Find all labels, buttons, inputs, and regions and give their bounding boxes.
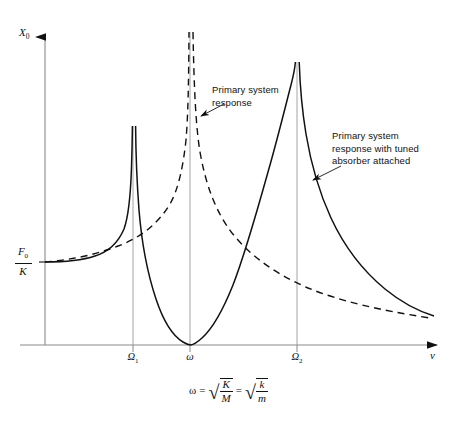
radical-hook-icon: √ [209,387,220,398]
fk-numerator: F [18,245,25,257]
curve-primary-response-left [45,32,189,262]
y-axis-value-label: F0 K [8,245,38,277]
formula-equals-2: = [236,384,242,396]
formula-second-numerator: k [256,379,268,390]
tick-label-omega-2: Ω2 [284,351,310,365]
formula-omega: ω [189,384,196,396]
annotation-primary-system-response-tuned-absorber: Primary system response with tuned absor… [332,130,419,168]
tick-label-omega: ω [177,351,203,362]
annotation-primary-system-response: Primary system response [212,84,279,109]
radical-hook-icon-2: √ [245,387,256,398]
leader-line-absorber-response [313,166,341,180]
tick-label-omega-1: Ω1 [120,351,146,365]
formula-radical-1: √KM [209,378,233,404]
chart-svg [0,0,457,422]
figure-container: X0 ν F0 K Ω1 ω Ω2 Primary system respons… [0,0,457,422]
curve-absorber-branch-3 [299,62,434,316]
curve-primary-response-right [193,32,430,318]
formula-second-denominator: m [256,393,268,404]
fk-numerator-sub: 0 [25,252,29,260]
formula-first-numerator: K [220,379,233,390]
formula-radical-2: √km [245,378,268,404]
formula-equals-1: = [199,384,205,396]
formula-first-denominator: M [220,393,233,404]
fraction-bar [15,263,32,264]
x-axis-label: ν [430,349,435,361]
formula-caption: ω=√KM=√km [0,378,457,404]
y-axis-label: X0 [19,26,29,41]
curve-absorber-branch-1 [45,126,132,262]
fk-denominator: K [8,265,38,277]
